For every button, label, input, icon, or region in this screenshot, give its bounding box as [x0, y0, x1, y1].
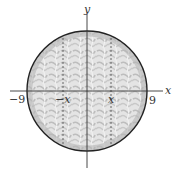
circle-diagram: x y −9 9 −x x: [0, 0, 173, 173]
tick-label-neg-x: −x: [55, 93, 71, 106]
x-axis-label: x: [165, 84, 172, 97]
tick-label-x: x: [108, 93, 115, 106]
tick-label-neg-9: −9: [9, 93, 25, 106]
y-axis-label: y: [83, 3, 91, 16]
tick-label-9: 9: [149, 94, 156, 107]
